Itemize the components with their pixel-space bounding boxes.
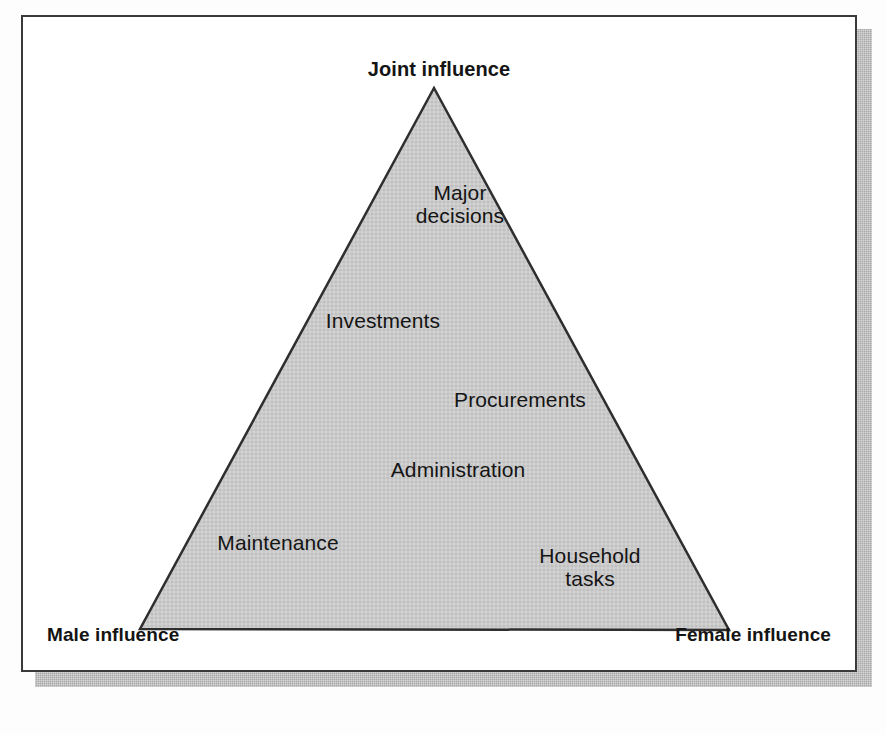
triangle-svg [23, 17, 859, 674]
figure-frame: Joint influence Major decisions Investme… [21, 15, 857, 672]
figure-canvas: Joint influence Major decisions Investme… [0, 0, 886, 735]
corner-label-female-influence: Female influence [675, 624, 831, 646]
corner-label-male-influence: Male influence [47, 624, 179, 646]
zone-label-major-decisions: Major decisions [367, 181, 553, 227]
zone-label-administration: Administration [365, 458, 551, 481]
zone-label-investments: Investments [290, 309, 476, 332]
zone-label-maintenance: Maintenance [185, 531, 371, 554]
zone-label-procurements: Procurements [427, 388, 613, 411]
triangle-graphic [23, 17, 859, 674]
zone-label-household-tasks: Household tasks [497, 544, 683, 590]
